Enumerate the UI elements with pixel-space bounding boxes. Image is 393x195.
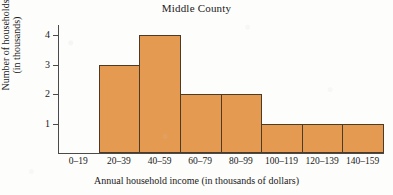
histogram-figure: Middle County Number of households (in t… — [0, 0, 393, 195]
y-tick-label: 2 — [36, 89, 50, 99]
y-axis-title: Number of households (in thousands) — [0, 0, 30, 105]
x-tick-label: 140–159 — [338, 157, 387, 167]
histogram-bar — [261, 124, 303, 153]
plot-area — [58, 25, 383, 153]
y-tick-label: 1 — [36, 119, 50, 129]
histogram-bar — [221, 94, 263, 153]
y-axis-title-line-1: Number of households — [0, 0, 11, 105]
histogram-bar — [180, 94, 222, 153]
histogram-bar — [302, 124, 344, 153]
chart-title: Middle County — [0, 2, 393, 14]
histogram-bar — [139, 35, 181, 153]
y-axis-title-line-2: (in thousands) — [11, 0, 22, 105]
x-axis-title: Annual household income (in thousands of… — [0, 175, 393, 186]
y-tick-label: 4 — [36, 30, 50, 40]
histogram-bar — [342, 124, 384, 153]
x-axis-spine — [58, 153, 384, 154]
y-tick-label: 3 — [36, 60, 50, 70]
histogram-bar — [99, 65, 141, 153]
